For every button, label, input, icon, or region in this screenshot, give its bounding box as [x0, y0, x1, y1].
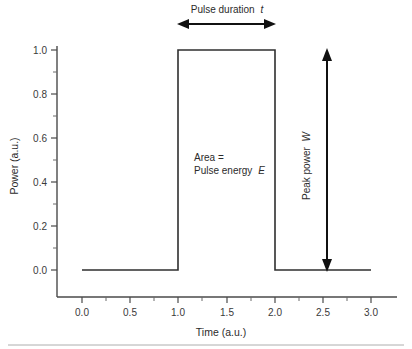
- y-tick-label-4: 0.8: [33, 89, 47, 100]
- pulse-duration-label: Pulse duration t: [191, 4, 265, 15]
- pulse-energy-line2: Pulse energy E: [194, 165, 265, 176]
- pulse-energy-symbol: E: [258, 165, 265, 176]
- peak-power-text: Peak power: [301, 147, 312, 200]
- pulse-duration-text: Pulse duration: [191, 4, 255, 15]
- y-tick-label-3: 0.6: [33, 133, 47, 144]
- pulse-power-chart: 0.0 0.2 0.4 0.6 0.8 1.0 0.0 0.5 1.0: [0, 0, 412, 349]
- x-tick-label-6: 3.0: [364, 307, 378, 318]
- y-tick-label-2: 0.4: [33, 177, 47, 188]
- x-tick-label-0: 0.0: [75, 307, 89, 318]
- peak-power-label: Peak power W: [301, 130, 312, 200]
- pulse-energy-line1: Area =: [194, 152, 224, 163]
- y-tick-label-1: 0.2: [33, 221, 47, 232]
- x-tick-label-3: 1.5: [220, 307, 234, 318]
- x-tick-label-5: 2.5: [316, 307, 330, 318]
- x-tick-label-2: 1.0: [171, 307, 185, 318]
- x-tick-label-1: 0.5: [123, 307, 137, 318]
- y-tick-label-5: 1.0: [33, 45, 47, 56]
- pulse-energy-text: Pulse energy: [194, 165, 252, 176]
- peak-power-symbol: W: [301, 130, 312, 141]
- y-tick-label-0: 0.0: [33, 265, 47, 276]
- x-axis-title: Time (a.u.): [196, 326, 246, 338]
- x-tick-label-4: 2.0: [268, 307, 282, 318]
- y-axis-title: Power (a.u.): [8, 137, 20, 194]
